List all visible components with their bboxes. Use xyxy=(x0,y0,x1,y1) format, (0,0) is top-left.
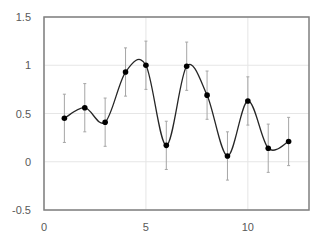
y-tick-label: 1 xyxy=(25,59,31,71)
data-point xyxy=(102,119,108,125)
x-tick-label: 5 xyxy=(143,221,149,233)
data-point xyxy=(123,69,129,75)
series-line xyxy=(64,59,288,156)
x-axis-tick-labels: 0510 xyxy=(41,221,254,233)
data-point xyxy=(82,105,88,111)
data-point xyxy=(225,153,231,159)
data-point xyxy=(184,63,190,69)
chart: -0.500.511.5 0510 xyxy=(0,0,322,243)
y-tick-label: -0.5 xyxy=(12,204,31,216)
gridlines xyxy=(44,17,309,210)
y-axis-tick-labels: -0.500.511.5 xyxy=(12,11,31,216)
data-point xyxy=(265,145,271,151)
y-tick-label: 1.5 xyxy=(16,11,31,23)
data-point xyxy=(143,62,149,68)
x-tick-label: 0 xyxy=(41,221,47,233)
data-point xyxy=(164,143,170,149)
data-point xyxy=(286,139,292,145)
data-point xyxy=(245,98,251,104)
data-point xyxy=(204,92,210,98)
x-tick-label: 10 xyxy=(242,221,254,233)
y-tick-label: 0.5 xyxy=(16,108,31,120)
data-point xyxy=(62,116,68,122)
y-tick-label: 0 xyxy=(25,156,31,168)
